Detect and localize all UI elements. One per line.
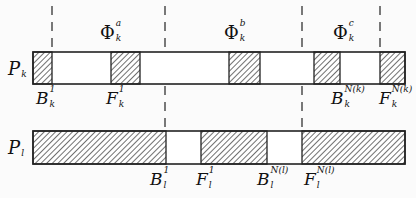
label-sup: 1 [209, 166, 215, 175]
bar-pl [33, 131, 405, 164]
label-sub: l [209, 181, 212, 190]
hatched-block [314, 52, 340, 84]
label-base: F [379, 88, 391, 108]
label-sub: l [21, 149, 24, 158]
marker-fnk-k: FN(k)k [379, 90, 391, 107]
hatched-block [229, 52, 260, 84]
hatched-block [201, 131, 267, 164]
hatched-block [111, 52, 140, 84]
label-sub: k [119, 100, 124, 109]
label-sup: a [116, 19, 121, 28]
label-sub: k [21, 70, 26, 79]
phase-label-a: Φak [100, 24, 115, 42]
label-sub: k [116, 34, 121, 43]
label-sub: k [349, 34, 354, 43]
hatched-block [302, 131, 405, 164]
row-label-pk: Pk [8, 60, 20, 78]
hatched-block [33, 52, 52, 84]
label-base: F [196, 169, 208, 189]
label-base: Φ [224, 22, 239, 43]
label-base: F [106, 88, 118, 108]
label-sup: c [349, 19, 354, 28]
bar-pk [33, 52, 405, 84]
marker-f1-l: F1l [196, 171, 208, 188]
phase-label-c: Φck [333, 24, 348, 42]
label-sub: k [50, 100, 55, 109]
label-base: F [304, 169, 316, 189]
marker-b1-l: B1l [150, 171, 163, 188]
marker-bnk-k: BN(k)k [331, 90, 344, 107]
label-base: B [331, 88, 344, 108]
label-sup: 1 [119, 85, 125, 94]
marker-fnl-l: FN(l)l [304, 171, 316, 188]
marker-b1-k: B1k [36, 90, 49, 107]
label-base: P [8, 137, 20, 158]
label-sub: l [164, 181, 167, 190]
phase-label-b: Φbk [224, 24, 239, 42]
label-sub: k [345, 100, 350, 109]
hatched-block [380, 52, 405, 84]
label-sup: N(l) [271, 166, 289, 175]
row-label-pl: Pl [8, 139, 20, 157]
label-sup: N(l) [317, 166, 335, 175]
label-base: B [150, 169, 163, 189]
label-sub: l [271, 181, 274, 190]
label-sup: b [240, 19, 246, 28]
label-sub: l [317, 181, 320, 190]
label-base: B [257, 169, 270, 189]
label-base: Φ [333, 22, 348, 43]
label-sup: N(k) [392, 85, 412, 94]
label-sub: k [240, 34, 245, 43]
label-sup: N(k) [345, 85, 365, 94]
label-sup: 1 [50, 85, 56, 94]
label-base: B [36, 88, 49, 108]
label-sup: 1 [164, 166, 170, 175]
marker-bnl-l: BN(l)l [257, 171, 270, 188]
label-base: P [8, 58, 20, 79]
label-base: Φ [100, 22, 115, 43]
hatched-block [33, 131, 166, 164]
label-sub: k [392, 100, 397, 109]
marker-f1-k: F1k [106, 90, 118, 107]
